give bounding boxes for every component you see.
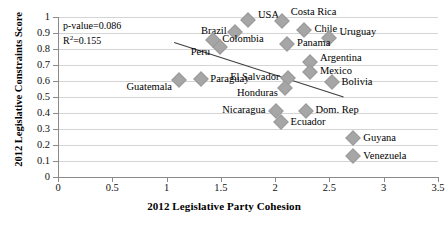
data-point-marker[interactable] (171, 72, 187, 88)
data-point-label: Dom. Rep (316, 105, 359, 116)
x-axis-line (58, 177, 438, 178)
y-tick-label: 0 (24, 172, 50, 183)
data-point-label: Colombia (222, 34, 263, 45)
data-point-label: Honduras (237, 88, 278, 99)
data-point-marker[interactable] (302, 64, 318, 80)
x-tick-label: 3 (369, 182, 399, 193)
y-tick-label: 0.9 (24, 28, 50, 39)
scatter-chart: 2012 Legislative Constraints Score 00.10… (0, 0, 448, 227)
data-point-marker[interactable] (240, 12, 256, 28)
x-tick-label: 3.5 (423, 182, 448, 193)
y-tick-label: 0.7 (24, 60, 50, 71)
y-axis-title: 2012 Legislative Constraints Score (13, 0, 24, 180)
y-tick-label: 0.2 (24, 140, 50, 151)
data-point-marker[interactable] (346, 130, 362, 146)
data-point-label: Peru (191, 47, 210, 58)
x-tick-label: 1.5 (206, 182, 236, 193)
statistics-annotation: p-value=0.086 R2=0.155 (63, 20, 121, 47)
data-point-label: Uruguay (339, 27, 376, 38)
x-tick-mark (167, 177, 168, 182)
y-tick-label: 0.3 (24, 124, 50, 135)
data-point-label: Guyana (363, 133, 396, 144)
y-tick-label: 0.4 (24, 108, 50, 119)
x-tick-label: 0.5 (97, 182, 127, 193)
data-point-label: Panama (297, 38, 330, 49)
y-tick-label: 0.8 (24, 44, 50, 55)
gridline (58, 49, 438, 50)
x-tick-mark (384, 177, 385, 182)
x-tick-mark (221, 177, 222, 182)
x-tick-label: 1 (152, 182, 182, 193)
y-tick-label: 1 (24, 12, 50, 23)
x-tick-mark (329, 177, 330, 182)
x-tick-mark (58, 177, 59, 182)
data-point-label: Paraguay (210, 74, 249, 85)
y-tick-label: 0.1 (24, 156, 50, 167)
r-squared-value: =0.155 (73, 35, 101, 46)
y-tick-label: 0.5 (24, 92, 50, 103)
x-tick-label: 2.5 (314, 182, 344, 193)
x-tick-mark (112, 177, 113, 182)
y-axis-line (58, 17, 59, 178)
x-axis-title: 2012 Legislative Party Cohesion (0, 200, 448, 212)
gridline (58, 145, 438, 146)
data-point-label: Venezuela (363, 151, 406, 162)
x-tick-mark (275, 177, 276, 182)
x-tick-mark (438, 177, 439, 182)
data-point-label: Bolivia (342, 77, 373, 88)
data-point-marker[interactable] (194, 71, 210, 87)
x-tick-label: 0 (43, 182, 73, 193)
r-squared-text: R2=0.155 (63, 32, 121, 47)
x-tick-label: 2 (260, 182, 290, 193)
data-point-label: Mexico (320, 66, 352, 77)
r-squared-prefix: R (63, 35, 70, 46)
data-point-label: Argentina (320, 53, 362, 64)
data-point-label: Costa Rica (291, 7, 337, 18)
gridline (58, 65, 438, 66)
gridline (58, 129, 438, 130)
data-point-label: Nicaragua (222, 105, 265, 116)
data-point-label: Guatemala (127, 82, 172, 93)
y-tick-label: 0.6 (24, 76, 50, 87)
data-point-marker[interactable] (297, 22, 313, 38)
data-point-label: Ecuador (291, 117, 326, 128)
p-value-text: p-value=0.086 (63, 20, 121, 32)
